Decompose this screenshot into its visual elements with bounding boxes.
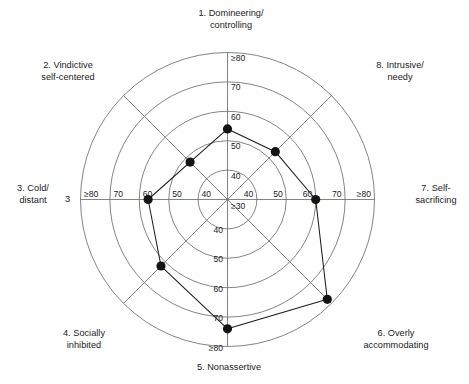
series-outline (148, 129, 327, 329)
radial-tick-label: 40 (231, 171, 241, 181)
radial-tick-label: 70 (231, 82, 241, 92)
grid-spoke (124, 96, 228, 200)
radial-tick-label: 40 (244, 189, 254, 199)
radial-tick-label: 60 (213, 284, 223, 294)
data-point-marker-4 (156, 261, 165, 270)
radar-plot-area: 40506070≥8040506070≥8040506070≥804050607… (0, 0, 469, 384)
radar-chart: 40506070≥8040506070≥8040506070≥804050607… (0, 0, 469, 384)
axis-label-6: 6. Overly accommodating (333, 328, 459, 351)
axis-label-7: 7. Self- sacrificing (404, 183, 468, 206)
radial-tick-label: 50 (172, 189, 182, 199)
data-point-marker-7 (311, 195, 320, 204)
radial-tick-label: 70 (332, 189, 342, 199)
data-point-marker-5 (223, 324, 232, 333)
grid-spoke (228, 96, 332, 200)
data-point-marker-3 (144, 195, 153, 204)
radial-tick-label: 60 (231, 112, 241, 122)
axis-label-2: 2. Vindictive self-centered (12, 60, 124, 83)
grid-spoke (228, 200, 332, 304)
radial-tick-label: 50 (231, 141, 241, 151)
radial-tick-label: 70 (113, 189, 123, 199)
radial-tick-label: ≥80 (357, 189, 371, 199)
data-point-marker-8 (271, 147, 280, 156)
radial-tick-label: ≥30 (231, 201, 245, 211)
axis-label-5: 5. Nonassertive (168, 362, 290, 374)
radial-tick-label: 70 (213, 313, 223, 323)
radial-tick-label: ≥80 (84, 189, 98, 199)
axis-label-1: 1. Domineering/ controlling (176, 8, 286, 31)
data-point-marker-6 (323, 295, 332, 304)
axis-label-3: 3. Cold/ distant (2, 183, 64, 206)
radial-tick-label: ≥80 (231, 53, 245, 63)
data-point-marker-1 (223, 124, 232, 133)
radial-tick-label: ≥80 (209, 343, 223, 353)
radial-tick-label: 40 (202, 189, 212, 199)
data-point-marker-2 (185, 157, 194, 166)
radial-tick-label: 50 (213, 254, 223, 264)
stray-axis-annotation: 3 (65, 194, 70, 204)
radial-tick-label: 50 (273, 189, 283, 199)
axis-label-4: 4. Socially inhibited (36, 328, 132, 351)
axis-label-8: 8. Intrusive/ needy (348, 60, 452, 83)
radial-tick-label: 40 (213, 225, 223, 235)
series-polygon (148, 129, 327, 329)
grid-spoke (124, 200, 228, 304)
